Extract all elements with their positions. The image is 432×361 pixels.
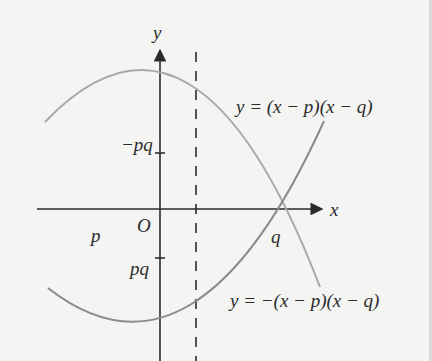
origin-label: O — [137, 215, 151, 236]
upward-equation-label: y = (x − p)(x − q) — [234, 96, 373, 118]
downward-equation-label: y = −(x − p)(x − q) — [228, 290, 379, 312]
graph-figure: y x O p q −pq pq y = (x − p)(x − q) y = … — [0, 0, 432, 361]
y-axis-label: y — [151, 22, 162, 43]
p-label: p — [89, 225, 101, 246]
graph-canvas: y x O p q −pq pq y = (x − p)(x − q) y = … — [0, 0, 432, 361]
q-label: q — [271, 226, 281, 247]
pq-label: pq — [128, 258, 150, 279]
neg-pq-label: −pq — [121, 134, 153, 155]
x-axis-label: x — [329, 199, 339, 220]
